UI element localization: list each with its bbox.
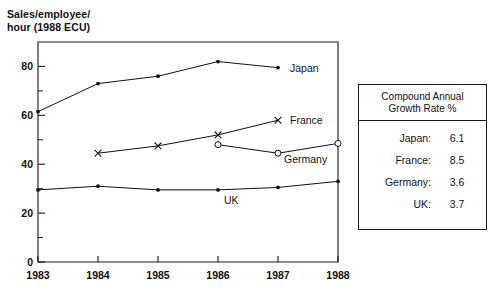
data-point-uk — [336, 179, 340, 183]
series-label-japan: Japan — [290, 62, 319, 74]
y-axis-tick-label: 60 — [21, 109, 33, 121]
growth-row-label: France: — [359, 154, 431, 166]
data-point-japan — [216, 60, 220, 64]
data-point-germany — [215, 142, 221, 148]
table-row: Japan: 6.1 — [359, 132, 486, 154]
y-axis-tick-label: 80 — [21, 60, 33, 72]
data-point-uk — [36, 188, 40, 192]
data-point-germany — [275, 150, 281, 156]
growth-row-label: Germany: — [359, 176, 431, 188]
growth-row-value: 3.7 — [431, 198, 483, 210]
x-axis-tick-label: 1988 — [326, 269, 350, 281]
series-line-uk — [38, 181, 338, 190]
growth-row-label: UK: — [359, 198, 431, 210]
series-line-japan — [38, 62, 278, 112]
data-point-uk — [276, 186, 280, 190]
growth-row-value: 6.1 — [431, 132, 483, 144]
x-axis-tick-label: 1983 — [26, 269, 50, 281]
figure: Sales/employee/ hour (1988 ECU) 02040608… — [0, 0, 494, 302]
x-axis-tick-label: 1987 — [266, 269, 290, 281]
data-point-uk — [156, 188, 160, 192]
y-axis-tick-label: 20 — [21, 207, 33, 219]
growth-row-value: 3.6 — [431, 176, 483, 188]
growth-row-label: Japan: — [359, 132, 431, 144]
series-label-germany: Germany — [284, 153, 328, 165]
compound-annual-growth-rate-table: Compound Annual Growth Rate % Japan: 6.1… — [358, 84, 487, 230]
data-point-uk — [96, 184, 100, 188]
x-axis-tick-label: 1985 — [146, 269, 170, 281]
series-line-france — [98, 120, 278, 153]
data-point-germany — [335, 140, 341, 146]
x-axis-tick-label: 1986 — [206, 269, 230, 281]
table-row: Germany: 3.6 — [359, 176, 486, 198]
series-label-uk: UK — [224, 194, 239, 206]
x-axis-tick-label: 1984 — [86, 269, 110, 281]
series-label-france: France — [290, 114, 323, 126]
data-point-uk — [216, 188, 220, 192]
data-point-japan — [96, 82, 100, 86]
growth-table-header: Compound Annual Growth Rate % — [359, 85, 486, 121]
table-row: France: 8.5 — [359, 154, 486, 176]
plot-frame — [38, 42, 338, 262]
data-point-japan — [36, 110, 40, 114]
data-point-france — [275, 117, 282, 124]
table-row: UK: 3.7 — [359, 198, 486, 220]
y-axis-tick-label: 0 — [27, 256, 33, 268]
growth-row-value: 8.5 — [431, 154, 483, 166]
growth-table-body: Japan: 6.1 France: 8.5 Germany: 3.6 UK: … — [359, 121, 486, 220]
data-point-japan — [276, 66, 280, 70]
y-axis-tick-label: 40 — [21, 158, 33, 170]
data-point-japan — [156, 74, 160, 78]
